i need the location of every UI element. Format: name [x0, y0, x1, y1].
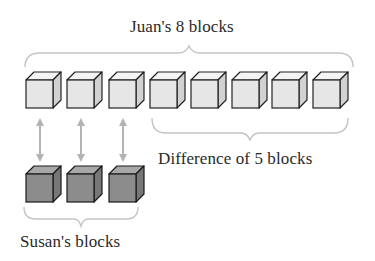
susan-block [26, 166, 61, 202]
juan-block [232, 72, 267, 108]
juan-block [150, 72, 185, 108]
susan-brace [24, 207, 138, 226]
double-arrow-icon [119, 118, 127, 162]
susan-block [67, 166, 102, 202]
double-arrow-icon [77, 118, 85, 162]
juan-block [67, 72, 102, 108]
susan-blocks-label: Susan's blocks [20, 232, 120, 252]
difference-brace [152, 118, 348, 140]
juan-block [26, 72, 61, 108]
susan-blocks [26, 166, 144, 202]
juan-block [313, 72, 348, 108]
double-arrow-icon [36, 118, 44, 162]
juan-block [191, 72, 226, 108]
matching-arrows [36, 118, 127, 162]
juan-blocks-label: Juan's 8 blocks [130, 17, 234, 37]
blocks-diagram [0, 0, 375, 261]
difference-label: Difference of 5 blocks [158, 149, 312, 169]
susan-block [109, 166, 144, 202]
juan-block [272, 72, 307, 108]
juan-block [109, 72, 144, 108]
juan-blocks [26, 72, 348, 108]
juan-brace [25, 46, 353, 67]
